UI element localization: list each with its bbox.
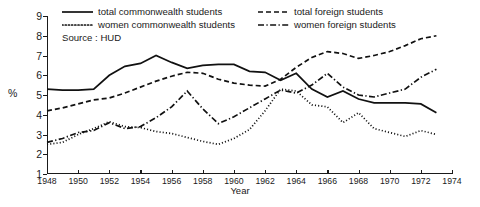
x-axis-tick [47, 170, 48, 174]
y-axis-tick-label: 3 [36, 129, 42, 140]
y-axis-tick [43, 154, 47, 155]
x-axis-tick-label: 1952 [100, 177, 119, 186]
x-axis-tick [203, 170, 204, 174]
x-axis-tick-label: 1964 [287, 177, 306, 186]
x-axis-tick [421, 170, 422, 174]
line-chart-figure: total commonwealth studentswomen commonw… [0, 0, 480, 207]
x-axis-tick [452, 170, 453, 174]
y-axis-tick-label: 5 [36, 90, 42, 101]
x-axis-tick-label: 1962 [255, 177, 274, 186]
x-axis-tick-label: 1970 [380, 177, 399, 186]
x-axis-tick [327, 170, 328, 174]
y-axis-tick-label: 2 [36, 149, 42, 160]
x-axis-tick-label: 1968 [349, 177, 368, 186]
y-axis-tick [43, 36, 47, 37]
series-container [47, 16, 452, 174]
series-line [47, 69, 436, 142]
y-axis-tick-label: 6 [36, 70, 42, 81]
x-axis-tick-label: 1950 [68, 177, 87, 186]
x-axis-tick-label: 1956 [162, 177, 181, 186]
y-axis-tick [43, 95, 47, 96]
x-axis-tick-label: 1966 [318, 177, 337, 186]
y-axis-tick [43, 56, 47, 57]
x-axis-tick-label: 1972 [411, 177, 430, 186]
y-axis-tick-label: 7 [36, 50, 42, 61]
y-axis-tick-label: 4 [36, 110, 42, 121]
y-axis-tick-label: 9 [36, 11, 42, 22]
series-line [47, 36, 436, 111]
x-axis-tick [172, 170, 173, 174]
x-axis-tick-label: 1960 [224, 177, 243, 186]
x-axis-tick [78, 170, 79, 174]
y-axis-tick [43, 135, 47, 136]
y-axis-tick-label: 8 [36, 31, 42, 42]
x-axis-tick-label: 1974 [442, 177, 461, 186]
x-axis-tick-label: 1948 [37, 177, 56, 186]
y-axis-tick [43, 115, 47, 116]
y-axis-tick [43, 75, 47, 76]
plot-area: 1234567891948195019521954195619581960196… [47, 16, 452, 174]
x-axis-tick [234, 170, 235, 174]
legend-line-swatch-solid [62, 8, 93, 16]
x-axis-tick [140, 170, 141, 174]
x-axis-tick-label: 1958 [193, 177, 212, 186]
x-axis-tick [296, 170, 297, 174]
y-axis-tick [43, 174, 47, 175]
x-axis-tick-label: 1954 [131, 177, 150, 186]
x-axis-tick [109, 170, 110, 174]
y-axis-tick [43, 16, 47, 17]
x-axis-tick [359, 170, 360, 174]
y-axis-title: % [8, 88, 17, 99]
series-line [47, 89, 436, 144]
x-axis-title: Year [0, 186, 480, 196]
legend-line-swatch-dashed [258, 8, 289, 16]
x-axis-tick [265, 170, 266, 174]
x-axis-tick [390, 170, 391, 174]
